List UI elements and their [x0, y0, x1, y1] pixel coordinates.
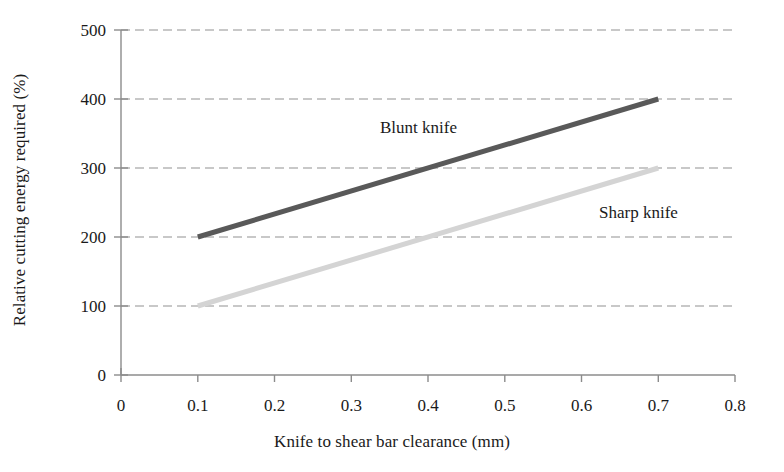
y-tick-label-500: 500: [52, 21, 106, 41]
y-tick-label-400: 400: [52, 90, 106, 110]
series-label-sharp-knife: Sharp knife: [599, 203, 678, 223]
y-axis-title: Relative cutting energy required (%): [10, 74, 30, 327]
y-tick-label-200: 200: [52, 228, 106, 248]
x-tick-label-0.6: 0.6: [557, 396, 607, 416]
x-axis-title: Knife to shear bar clearance (mm): [0, 432, 784, 452]
x-tick-label-0.8: 0.8: [710, 396, 760, 416]
y-tick-label-0: 0: [52, 366, 106, 386]
y-axis-title-container: Relative cutting energy required (%): [0, 0, 40, 400]
y-tick-label-100: 100: [52, 297, 106, 317]
x-tick-label-0.5: 0.5: [480, 396, 530, 416]
y-tick-label-300: 300: [52, 159, 106, 179]
chart-figure: 500 400 300 200 100 0 0 0.1 0.2 0.3 0.4 …: [0, 0, 784, 472]
x-tick-label-0.7: 0.7: [633, 396, 683, 416]
x-tick-label-0.2: 0.2: [250, 396, 300, 416]
x-tick-label-0: 0: [96, 396, 146, 416]
series-label-blunt-knife: Blunt knife: [380, 118, 457, 138]
x-tick-label-0.1: 0.1: [173, 396, 223, 416]
x-tick-label-0.4: 0.4: [403, 396, 453, 416]
x-tick-label-0.3: 0.3: [326, 396, 376, 416]
